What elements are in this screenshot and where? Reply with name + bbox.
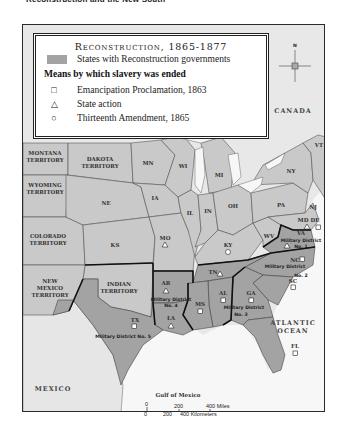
scale-km-labels: 0 xyxy=(22,24,325,412)
page-header: Reconstruction and the New South xyxy=(26,0,165,4)
scale-km-200-label: 200 xyxy=(163,411,172,417)
scale-km-0-label: 0 xyxy=(144,411,147,417)
scale-km-400-label: 400 Kilometers xyxy=(180,411,217,417)
